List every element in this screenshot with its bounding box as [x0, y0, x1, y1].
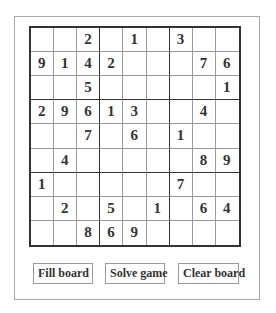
sudoku-cell[interactable] [77, 197, 100, 221]
sudoku-cell[interactable]: 6 [216, 52, 239, 76]
sudoku-cell[interactable] [100, 124, 123, 148]
sudoku-cell[interactable]: 1 [170, 124, 193, 148]
sudoku-cell[interactable]: 2 [100, 52, 123, 76]
sudoku-cell[interactable]: 1 [216, 76, 239, 100]
sudoku-grid: 213914276512961347614891725164869 [29, 26, 241, 247]
sudoku-cell[interactable]: 5 [100, 197, 123, 221]
sudoku-cell[interactable]: 2 [31, 100, 54, 124]
sudoku-cell[interactable]: 4 [193, 100, 216, 124]
sudoku-cell[interactable] [54, 76, 77, 100]
solve-game-button[interactable]: Solve game [105, 263, 165, 284]
sudoku-cell[interactable] [193, 173, 216, 197]
sudoku-cell[interactable] [216, 173, 239, 197]
sudoku-cell[interactable] [123, 149, 146, 173]
sudoku-cell[interactable] [170, 221, 193, 245]
sudoku-cell[interactable] [31, 221, 54, 245]
sudoku-cell[interactable] [147, 100, 170, 124]
sudoku-cell[interactable] [216, 100, 239, 124]
sudoku-cell[interactable] [147, 173, 170, 197]
sudoku-cell[interactable] [147, 52, 170, 76]
sudoku-cell[interactable] [77, 149, 100, 173]
sudoku-cell[interactable] [54, 124, 77, 148]
clear-board-button[interactable]: Clear board [178, 263, 239, 284]
sudoku-cell[interactable] [100, 149, 123, 173]
sudoku-cell[interactable]: 4 [216, 197, 239, 221]
sudoku-cell[interactable]: 7 [77, 124, 100, 148]
sudoku-cell[interactable] [100, 28, 123, 52]
sudoku-cell[interactable] [54, 28, 77, 52]
sudoku-cell[interactable] [170, 149, 193, 173]
sudoku-cell[interactable]: 7 [170, 173, 193, 197]
sudoku-cell[interactable] [31, 149, 54, 173]
sudoku-cell[interactable] [123, 173, 146, 197]
sudoku-cell[interactable] [123, 76, 146, 100]
sudoku-cell[interactable] [31, 197, 54, 221]
sudoku-cell[interactable]: 6 [193, 197, 216, 221]
sudoku-cell[interactable] [77, 173, 100, 197]
sudoku-cell[interactable]: 1 [123, 28, 146, 52]
sudoku-cell[interactable] [31, 76, 54, 100]
sudoku-cell[interactable] [216, 221, 239, 245]
sudoku-cell[interactable] [31, 124, 54, 148]
sudoku-cell[interactable]: 2 [54, 197, 77, 221]
sudoku-cell[interactable]: 8 [77, 221, 100, 245]
sudoku-cell[interactable]: 9 [31, 52, 54, 76]
sudoku-cell[interactable] [193, 28, 216, 52]
sudoku-cell[interactable] [147, 28, 170, 52]
sudoku-cell[interactable]: 3 [170, 28, 193, 52]
sudoku-cell[interactable] [147, 149, 170, 173]
sudoku-cell[interactable]: 3 [123, 100, 146, 124]
sudoku-cell[interactable] [123, 52, 146, 76]
sudoku-cell[interactable] [170, 100, 193, 124]
sudoku-cell[interactable]: 1 [54, 52, 77, 76]
sudoku-cell[interactable]: 6 [77, 100, 100, 124]
sudoku-cell[interactable] [147, 221, 170, 245]
sudoku-cell[interactable]: 9 [123, 221, 146, 245]
sudoku-cell[interactable] [170, 76, 193, 100]
sudoku-cell[interactable]: 6 [100, 221, 123, 245]
sudoku-cell[interactable]: 1 [100, 100, 123, 124]
sudoku-cell[interactable]: 1 [31, 173, 54, 197]
sudoku-cell[interactable] [193, 124, 216, 148]
sudoku-cell[interactable] [193, 76, 216, 100]
sudoku-cell[interactable] [170, 52, 193, 76]
sudoku-cell[interactable] [147, 76, 170, 100]
sudoku-cell[interactable] [123, 197, 146, 221]
sudoku-cell[interactable] [170, 197, 193, 221]
sudoku-cell[interactable]: 8 [193, 149, 216, 173]
sudoku-cell[interactable] [216, 28, 239, 52]
sudoku-cell[interactable] [100, 173, 123, 197]
sudoku-cell[interactable] [31, 28, 54, 52]
sudoku-cell[interactable]: 2 [77, 28, 100, 52]
fill-board-button[interactable]: Fill board [33, 263, 93, 284]
sudoku-cell[interactable]: 5 [77, 76, 100, 100]
sudoku-cell[interactable]: 1 [147, 197, 170, 221]
sudoku-cell[interactable]: 9 [54, 100, 77, 124]
sudoku-cell[interactable]: 4 [54, 149, 77, 173]
sudoku-cell[interactable]: 7 [193, 52, 216, 76]
sudoku-cell[interactable] [54, 173, 77, 197]
sudoku-cell[interactable] [193, 221, 216, 245]
sudoku-cell[interactable] [216, 124, 239, 148]
sudoku-cell[interactable] [54, 221, 77, 245]
sudoku-cell[interactable]: 4 [77, 52, 100, 76]
sudoku-cell[interactable]: 6 [123, 124, 146, 148]
sudoku-cell[interactable] [147, 124, 170, 148]
sudoku-cell[interactable] [100, 76, 123, 100]
sudoku-cell[interactable]: 9 [216, 149, 239, 173]
